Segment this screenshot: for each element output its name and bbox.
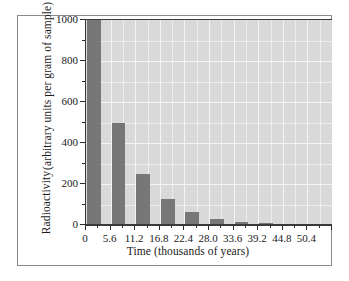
y-axis-tick-label: 600: [62, 95, 79, 107]
x-axis-tick-label: 5.6: [103, 232, 117, 244]
x-axis-tick-label: 22.4: [174, 232, 193, 244]
bar-series: [86, 20, 332, 225]
bar: [87, 20, 101, 225]
x-axis-tick-major: [282, 225, 283, 230]
y-axis-tick-label: 200: [62, 177, 79, 189]
y-axis-tick-minor: [82, 204, 85, 205]
x-axis-tick-minor: [122, 225, 123, 228]
x-axis-tick-major: [208, 225, 209, 230]
x-axis-tick-minor: [270, 225, 271, 228]
y-axis-tick-minor: [82, 163, 85, 164]
y-axis-title-line-1: Radioactivity: [40, 171, 53, 234]
x-axis-tick-major: [134, 225, 135, 230]
x-axis-tick-major: [306, 225, 307, 230]
x-axis-tick-minor: [196, 225, 197, 228]
y-axis-tick-label: 1000: [56, 13, 78, 25]
y-axis-tick-label: 800: [62, 54, 79, 66]
y-axis-tick-major: [80, 101, 85, 102]
x-axis-tick-label: 11.2: [125, 232, 144, 244]
y-axis-tick-major: [80, 183, 85, 184]
x-axis-tick-label: 44.8: [272, 232, 291, 244]
x-axis-tick-label: 39.2: [248, 232, 267, 244]
y-axis-tick-major: [80, 60, 85, 61]
figure-frame: Radioactivity (arbitrary units per gram …: [17, 15, 332, 266]
bar: [112, 123, 126, 226]
y-axis-tick-minor: [82, 81, 85, 82]
x-axis-tick-label: 0: [82, 232, 88, 244]
x-axis-tick-label: 16.8: [149, 232, 168, 244]
x-axis-tick-major: [257, 225, 258, 230]
x-axis-tick-minor: [294, 225, 295, 228]
x-axis-title: Time (thousands of years): [58, 245, 318, 257]
y-axis-tick-label: 400: [62, 136, 79, 148]
y-axis-tick-label: 0: [73, 218, 79, 230]
y-axis-tick-major: [80, 142, 85, 143]
x-axis-tick-minor: [220, 225, 221, 228]
x-axis-tick-label: 33.6: [223, 232, 242, 244]
x-axis-tick-major: [110, 225, 111, 230]
x-axis-tick-label: 50.4: [297, 232, 316, 244]
y-axis-title-line-2: (arbitrary units per gram of sample): [41, 2, 54, 170]
bar: [161, 199, 175, 225]
x-axis-tick-minor: [147, 225, 148, 228]
x-axis-tick-minor: [319, 225, 320, 228]
bar: [136, 174, 150, 225]
x-axis: 05.611.216.822.428.033.639.244.850.4: [85, 224, 332, 226]
y-axis-tick-minor: [82, 40, 85, 41]
x-axis-tick-minor: [245, 225, 246, 228]
y-axis-tick-major: [80, 19, 85, 20]
x-axis-tick-major: [85, 225, 86, 230]
x-axis-tick-major: [183, 225, 184, 230]
plot-area: [85, 19, 332, 225]
x-axis-tick-major: [159, 225, 160, 230]
x-axis-tick-major: [233, 225, 234, 230]
x-axis-tick-minor: [97, 225, 98, 228]
x-axis-tick-major: [331, 225, 332, 230]
y-axis-tick-minor: [82, 122, 85, 123]
y-axis-title: Radioactivity (arbitrary units per gram …: [30, 13, 64, 223]
x-axis-tick-minor: [171, 225, 172, 228]
x-axis-tick-label: 28.0: [198, 232, 217, 244]
